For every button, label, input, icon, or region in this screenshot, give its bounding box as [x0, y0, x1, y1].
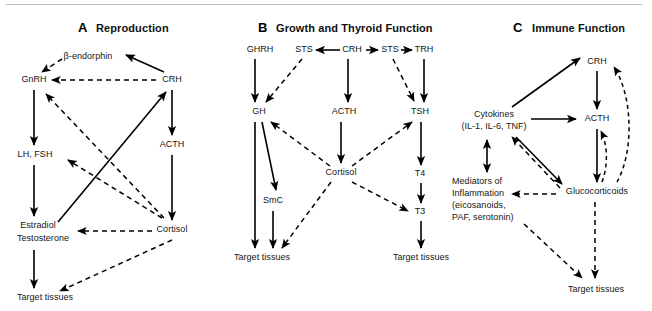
node-a-gnrh[interactable]: GnRH	[21, 74, 46, 86]
edge-c-glucocorticoids-to-cytokines	[512, 137, 560, 188]
node-b-trh[interactable]: TRH	[415, 44, 434, 56]
node-b-target-tissues-right[interactable]: Target tissues	[393, 252, 449, 264]
panel-b-letter: B	[258, 20, 267, 35]
edge-b-cortisol-to-t3	[352, 182, 408, 211]
panel-b-title: Growth and Thyroid Function	[276, 22, 433, 34]
panel-c-title: Immune Function	[532, 22, 625, 34]
node-b-sts-left[interactable]: STS	[295, 44, 313, 56]
node-a-estradiol[interactable]: Estradiol	[20, 220, 55, 232]
panel-a-letter: A	[78, 20, 87, 35]
node-a-lh-fsh[interactable]: LH, FSH	[18, 149, 53, 161]
edge-b-sts2-to-tsh	[393, 59, 414, 101]
node-b-sts-right[interactable]: STS	[381, 44, 399, 56]
edge-b-cortisol-to-gh	[271, 122, 330, 166]
node-c-glucocorticoids[interactable]: Glucocorticoids	[566, 186, 628, 198]
edge-a-crh-to-bendorphin	[126, 55, 164, 72]
node-a-testosterone[interactable]: Testosterone	[17, 233, 69, 245]
panel-a-title: Reproduction	[96, 22, 169, 34]
node-b-acth[interactable]: ACTH	[332, 106, 357, 118]
node-b-t4[interactable]: T4	[415, 168, 426, 180]
node-c-mediators-line3[interactable]: (eicosanoids,	[452, 200, 506, 212]
node-c-cytokines[interactable]: Cytokines	[474, 109, 514, 121]
node-b-crh[interactable]: CRH	[342, 44, 362, 56]
node-b-smc[interactable]: SmC	[263, 195, 283, 207]
node-beta-endorphin[interactable]: β-endorphin	[64, 51, 113, 63]
edge-a-cortisol-to-gnrh	[46, 94, 164, 218]
edge-a-estradiol-to-crh	[58, 92, 166, 222]
node-c-target-tissues[interactable]: Target tissues	[568, 284, 624, 296]
panel-c-letter: C	[513, 20, 522, 35]
edge-c-glucocorticoids-to-acth-feedback	[601, 131, 606, 182]
top-horizontal-rule	[6, 4, 642, 5]
node-b-gh[interactable]: GH	[252, 106, 266, 118]
edge-b-cortisol-to-tsh	[352, 122, 412, 166]
node-c-mediators-line1[interactable]: Mediators of	[452, 176, 502, 188]
node-b-target-tissues-left[interactable]: Target tissues	[234, 252, 290, 264]
pathway-edges	[0, 0, 652, 311]
node-a-acth[interactable]: ACTH	[160, 139, 185, 151]
edge-c-glucocorticoids-to-crh-feedback	[614, 67, 629, 182]
node-b-t3[interactable]: T3	[415, 206, 426, 218]
edge-c-cytokines-to-glucocorticoids	[516, 137, 562, 184]
node-c-mediators-line4[interactable]: PAF, serotonin)	[452, 212, 514, 224]
edge-b-gh-to-smc	[262, 122, 276, 190]
node-c-acth[interactable]: ACTH	[585, 113, 610, 125]
node-c-cytokines-detail[interactable]: (IL-1, IL-6, TNF)	[461, 121, 526, 133]
edge-b-sts1-to-gh	[266, 59, 302, 102]
edge-a-cortisol-to-target	[60, 240, 172, 291]
node-b-ghrh[interactable]: GHRH	[247, 44, 274, 56]
edge-c-mediators-to-target	[524, 224, 582, 278]
edge-c-cytokines-to-crh	[512, 58, 580, 107]
node-c-crh[interactable]: CRH	[587, 56, 607, 68]
node-c-mediators-line2[interactable]: Inflammation	[452, 188, 504, 200]
node-b-tsh[interactable]: TSH	[411, 106, 429, 118]
node-b-cortisol[interactable]: Cortisol	[326, 167, 357, 179]
edge-a-bendorphin-to-gnrh	[42, 59, 62, 72]
node-a-target-tissues[interactable]: Target tissues	[17, 292, 73, 304]
edge-a-cortisol-to-lhfsh	[68, 160, 162, 218]
figure-canvas: A Reproduction B Growth and Thyroid Func…	[0, 0, 652, 311]
node-a-cortisol[interactable]: Cortisol	[157, 224, 188, 236]
node-a-crh[interactable]: CRH	[162, 74, 182, 86]
edge-b-cortisol-to-target-left	[282, 182, 331, 248]
